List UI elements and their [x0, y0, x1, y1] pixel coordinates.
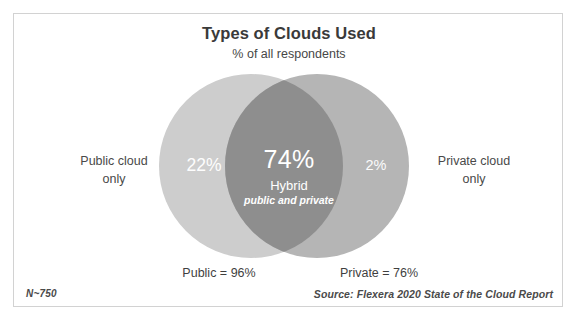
caption-private-cloud-only-line1: Private cloud [418, 152, 530, 170]
caption-public-cloud-only: Public cloud only [62, 152, 166, 188]
venn-diagram: 22% 74% Hybrid public and private 2% Pub… [14, 14, 563, 307]
chart-card: Types of Clouds Used % of all respondent… [13, 13, 563, 307]
caption-private-cloud-only: Private cloud only [418, 152, 530, 188]
total-public: Public = 96% [164, 266, 274, 280]
footnote-source: Source: Flexera 2020 State of the Cloud … [314, 288, 553, 300]
venn-circles-graphic [159, 66, 409, 266]
caption-public-cloud-only-line1: Public cloud [62, 152, 166, 170]
total-private: Private = 76% [324, 266, 434, 280]
footnote-sample-size: N~750 [26, 288, 57, 299]
caption-private-cloud-only-line2: only [418, 170, 530, 188]
caption-public-cloud-only-line2: only [62, 170, 166, 188]
